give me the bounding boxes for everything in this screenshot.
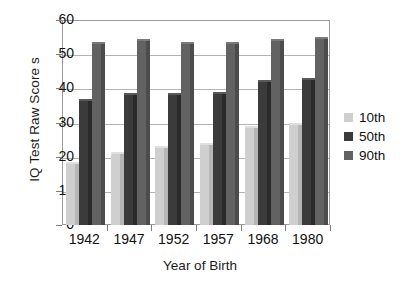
bar-cap (124, 93, 137, 95)
bar-face (168, 93, 177, 225)
bar-cap (302, 78, 315, 80)
bar-face (315, 37, 324, 225)
bar-cap (315, 37, 328, 39)
bar-group (289, 20, 328, 225)
bar-group (66, 20, 105, 225)
legend: 10th50th90th (344, 108, 385, 165)
bar-chart: IQ Test Raw Score s 0102030405060 194219… (0, 0, 410, 288)
legend-label: 50th (359, 129, 385, 144)
bar-cap (289, 123, 302, 125)
bar-face (258, 80, 267, 225)
bar-face (155, 146, 164, 225)
bar-face (66, 162, 75, 225)
bar-50th-1968 (258, 80, 271, 225)
bar-face (124, 93, 133, 225)
bar-cap (66, 162, 79, 164)
bar-50th-1957 (213, 92, 226, 225)
bar-90th-1952 (181, 42, 194, 225)
bar-side (146, 39, 150, 225)
legend-swatch-10th (344, 113, 353, 122)
bar-90th-1942 (92, 42, 105, 225)
legend-item-10th[interactable]: 10th (344, 108, 385, 127)
bar-cap (168, 93, 181, 95)
bar-face (302, 78, 311, 225)
bar-cap (258, 80, 271, 82)
bar-group (111, 20, 150, 225)
x-axis-title: Year of Birth (55, 258, 345, 273)
bar-cap (181, 42, 194, 44)
bar-face (226, 42, 235, 225)
legend-label: 90th (359, 148, 385, 163)
bar-90th-1980 (315, 37, 328, 225)
legend-swatch-90th (344, 151, 353, 160)
bar-face (245, 126, 254, 225)
bars-layer (62, 20, 330, 225)
bar-90th-1957 (226, 42, 239, 225)
bar-face (111, 152, 120, 225)
bar-side (235, 42, 239, 225)
bar-10th-1957 (200, 143, 213, 225)
bar-50th-1947 (124, 93, 137, 225)
y-tick-mark (56, 225, 62, 226)
bar-group (200, 20, 239, 225)
bar-face (181, 42, 190, 225)
bar-10th-1942 (66, 162, 79, 225)
bar-10th-1980 (289, 123, 302, 226)
bar-cap (213, 92, 226, 94)
bar-50th-1952 (168, 93, 181, 225)
bar-90th-1968 (271, 39, 284, 225)
bar-cap (200, 143, 213, 145)
legend-label: 10th (359, 110, 385, 125)
bar-cap (137, 39, 150, 41)
bar-face (213, 92, 222, 225)
x-tick-label: 1980 (280, 231, 336, 247)
bar-face (137, 39, 146, 225)
bar-face (92, 42, 101, 225)
bar-face (200, 143, 209, 225)
bar-cap (271, 39, 284, 41)
bar-side (101, 42, 105, 225)
bar-group (155, 20, 194, 225)
bar-side (190, 42, 194, 225)
bar-10th-1952 (155, 146, 168, 225)
bar-side (324, 37, 328, 225)
bar-50th-1942 (79, 99, 92, 225)
bar-90th-1947 (137, 39, 150, 225)
bar-cap (155, 146, 168, 148)
bar-10th-1968 (245, 126, 258, 225)
bar-cap (79, 99, 92, 101)
legend-swatch-50th (344, 132, 353, 141)
bar-group (245, 20, 284, 225)
bar-50th-1980 (302, 78, 315, 225)
bar-face (271, 39, 280, 225)
bar-cap (245, 126, 258, 128)
bar-cap (226, 42, 239, 44)
bar-side (280, 39, 284, 225)
legend-item-50th[interactable]: 50th (344, 127, 385, 146)
bar-face (79, 99, 88, 225)
bar-cap (111, 152, 124, 154)
bar-10th-1947 (111, 152, 124, 225)
bar-cap (92, 42, 105, 44)
legend-item-90th[interactable]: 90th (344, 146, 385, 165)
bar-face (289, 123, 298, 226)
